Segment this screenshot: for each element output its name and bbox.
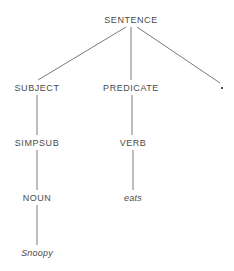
tree-edge-sentence-to-subject <box>38 27 126 80</box>
parse-tree-figure: SENTENCESUBJECTPREDICATESIMPSUBVERBNOUNe… <box>0 0 234 271</box>
tree-node-subject: SUBJECT <box>15 83 60 93</box>
tree-node-eats: eats <box>124 193 142 203</box>
tree-edges-layer <box>0 0 234 271</box>
tree-node-period <box>221 87 223 89</box>
tree-node-predicate: PREDICATE <box>103 83 159 93</box>
tree-node-simpsub: SIMPSUB <box>15 138 59 148</box>
tree-node-verb: VERB <box>120 138 147 148</box>
tree-node-snoopy: Snoopy <box>21 248 53 258</box>
edge-group <box>37 27 220 245</box>
tree-node-noun: NOUN <box>23 193 52 203</box>
tree-edge-sentence-to-period <box>137 27 220 83</box>
tree-node-sentence: SENTENCE <box>104 15 157 25</box>
